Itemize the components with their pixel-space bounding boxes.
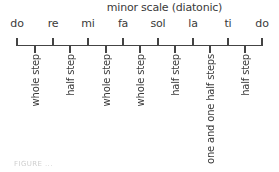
note-label-fa: fa — [118, 17, 128, 30]
interval-label: whole step — [135, 54, 146, 106]
interval-tick — [174, 45, 175, 53]
interval-tick — [69, 45, 70, 53]
note-tick — [122, 38, 123, 46]
interval-tick — [105, 45, 106, 53]
note-tick — [52, 38, 53, 46]
note-tick — [227, 38, 228, 46]
note-label-do: do — [10, 17, 23, 30]
interval-label: half step — [170, 54, 181, 96]
note-label-ti: ti — [225, 17, 232, 30]
note-label-sol: sol — [151, 17, 166, 30]
interval-label: whole step — [101, 54, 112, 106]
note-tick — [192, 38, 193, 46]
figure-caption: FIGURE ... — [14, 160, 53, 168]
interval-tick — [209, 45, 210, 53]
interval-tick — [139, 45, 140, 53]
interval-tick — [244, 45, 245, 53]
note-label-mi: mi — [81, 17, 94, 30]
diagram-title: minor scale (diatonic) — [0, 1, 279, 14]
note-label-la: la — [188, 17, 197, 30]
interval-label: half step — [240, 54, 251, 96]
note-tick — [261, 38, 262, 46]
note-tick — [87, 38, 88, 46]
note-label-re: re — [48, 17, 59, 30]
interval-label: one and one half steps — [205, 54, 216, 164]
interval-tick — [34, 45, 35, 53]
interval-label: half step — [65, 54, 76, 96]
interval-label: whole step — [30, 54, 41, 106]
note-tick — [16, 38, 17, 46]
note-tick — [157, 38, 158, 46]
note-label-do: do — [255, 17, 268, 30]
